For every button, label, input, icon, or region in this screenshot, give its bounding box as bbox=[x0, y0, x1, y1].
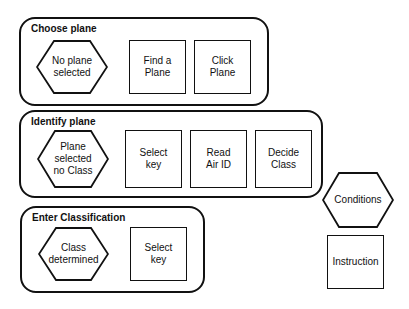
group-title: Identify plane bbox=[31, 116, 95, 127]
condition-label: Plane selected no Class bbox=[37, 130, 109, 188]
instruction-box: Select key bbox=[130, 227, 187, 281]
condition-hexagon: Plane selected no Class bbox=[37, 130, 109, 188]
group-title: Enter Classification bbox=[32, 212, 125, 223]
instruction-box: Find a Plane bbox=[129, 40, 186, 94]
condition-label: No plane selected bbox=[36, 40, 108, 94]
legend-instruction-box: Instruction bbox=[327, 235, 384, 289]
legend-conditions-label: Conditions bbox=[322, 172, 394, 228]
instruction-box: Read Air ID bbox=[190, 130, 247, 188]
instruction-box: Select key bbox=[125, 130, 182, 188]
instruction-box: Decide Class bbox=[255, 130, 312, 188]
condition-label: Class determined bbox=[38, 227, 109, 281]
instruction-box: Click Plane bbox=[194, 40, 251, 94]
condition-hexagon: No plane selected bbox=[36, 40, 108, 94]
group-title: Choose plane bbox=[31, 23, 97, 34]
condition-hexagon: Class determined bbox=[38, 227, 109, 281]
legend-conditions-hexagon: Conditions bbox=[322, 172, 394, 228]
